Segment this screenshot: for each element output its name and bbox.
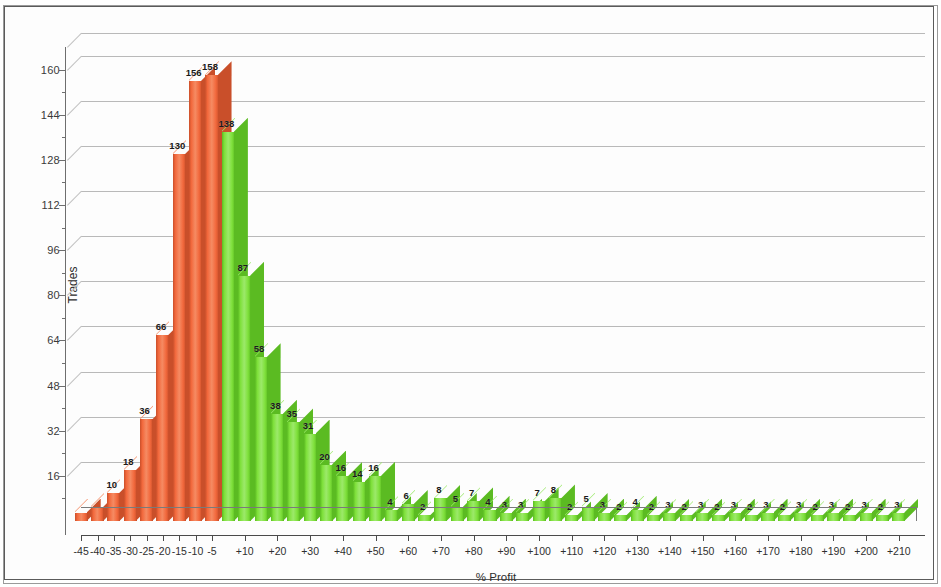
x-tick xyxy=(539,535,540,541)
x-tick xyxy=(866,535,867,541)
bar[interactable] xyxy=(255,357,268,521)
x-tick-label: +160 xyxy=(723,545,747,557)
y-tick xyxy=(59,115,66,116)
y-tick-minor xyxy=(62,228,66,229)
x-tick-label: +170 xyxy=(756,545,780,557)
bar-value-label: 4 xyxy=(485,496,490,507)
x-tick xyxy=(147,535,148,541)
x-tick-label: -45 xyxy=(74,545,89,557)
bar-front-face xyxy=(156,335,169,521)
x-tick xyxy=(130,535,131,541)
axis-depth-connector xyxy=(67,417,82,432)
bar[interactable] xyxy=(238,276,251,521)
grid-line xyxy=(81,56,925,57)
y-tick xyxy=(59,70,66,71)
y-tick xyxy=(59,295,66,296)
bar-value-label: 8 xyxy=(551,484,556,495)
axis-depth-connector xyxy=(67,462,82,477)
bar[interactable] xyxy=(140,419,153,521)
x-tick xyxy=(343,535,344,541)
y-tick-label: 112 xyxy=(42,199,60,211)
x-tick-label: -30 xyxy=(123,545,138,557)
bar-value-label: 7 xyxy=(534,487,539,498)
x-tick xyxy=(506,535,507,541)
bar-front-face xyxy=(271,414,284,521)
x-tick-label: +10 xyxy=(236,545,254,557)
x-axis xyxy=(81,535,925,536)
y-tick-minor xyxy=(62,453,66,454)
bar-value-label: 35 xyxy=(286,408,297,419)
x-tick xyxy=(310,535,311,541)
y-tick-label: 96 xyxy=(47,244,60,256)
x-tick xyxy=(441,535,442,541)
bar-value-label: 36 xyxy=(139,405,150,416)
bar-value-label: 10 xyxy=(107,479,118,490)
bar-value-label: 87 xyxy=(237,262,248,273)
back-wall-top xyxy=(81,33,925,34)
y-tick xyxy=(59,431,66,432)
x-tick xyxy=(572,535,573,541)
x-tick xyxy=(196,535,197,541)
y-tick-minor xyxy=(62,498,66,499)
x-tick xyxy=(245,535,246,541)
bar-front-face xyxy=(173,154,186,521)
bar-value-label: 4 xyxy=(633,496,638,507)
y-tick xyxy=(59,386,66,387)
chart-frame: Trades 163248648096112128144160 10183666… xyxy=(4,6,934,580)
x-tick xyxy=(98,535,99,541)
bar-value-label: 7 xyxy=(469,487,474,498)
bar-front-face xyxy=(255,357,268,521)
x-tick-label: -25 xyxy=(139,545,154,557)
bar[interactable] xyxy=(173,154,186,521)
axis-depth-connector xyxy=(67,146,82,161)
x-tick-label: +150 xyxy=(691,545,715,557)
bar-value-label: 14 xyxy=(352,468,363,479)
x-tick xyxy=(604,535,605,541)
y-tick-minor xyxy=(62,182,66,183)
x-tick-label: -35 xyxy=(106,545,121,557)
x-tick-label: +20 xyxy=(269,545,287,557)
bar-value-label: 66 xyxy=(156,321,167,332)
bar-value-label: 130 xyxy=(169,140,185,151)
bar[interactable] xyxy=(189,81,202,521)
x-tick-label: +70 xyxy=(432,545,450,557)
y-tick xyxy=(59,476,66,477)
x-tick-label: +140 xyxy=(658,545,682,557)
bar[interactable] xyxy=(156,335,169,521)
bar-value-label: 6 xyxy=(404,490,409,501)
y-tick-minor xyxy=(62,408,66,409)
x-tick xyxy=(703,535,704,541)
bar-value-label: 20 xyxy=(319,451,330,462)
x-tick xyxy=(637,535,638,541)
y-tick-minor xyxy=(62,137,66,138)
x-tick-label: -15 xyxy=(172,545,187,557)
plot-area: Trades 163248648096112128144160 10183666… xyxy=(67,35,925,535)
bar-front-face xyxy=(222,132,235,521)
y-tick-minor xyxy=(62,92,66,93)
x-tick xyxy=(212,535,213,541)
bar-value-label: 4 xyxy=(387,496,392,507)
x-tick-label: -5 xyxy=(207,545,216,557)
x-tick xyxy=(899,535,900,541)
bar[interactable] xyxy=(222,132,235,521)
x-tick xyxy=(833,535,834,541)
y-tick-label: 48 xyxy=(47,380,60,392)
axis-depth-connector xyxy=(67,56,82,71)
x-tick-label: +130 xyxy=(625,545,649,557)
axis-depth-connector xyxy=(67,33,82,48)
axis-depth-connector xyxy=(67,236,82,251)
bar[interactable] xyxy=(271,414,284,521)
y-tick-minor xyxy=(62,273,66,274)
x-tick xyxy=(179,535,180,541)
bar-value-label: 138 xyxy=(218,118,234,129)
y-tick xyxy=(59,250,66,251)
x-tick-label: +190 xyxy=(822,545,846,557)
x-tick-label: +50 xyxy=(367,545,385,557)
bar[interactable] xyxy=(205,75,218,521)
y-tick xyxy=(59,340,66,341)
x-tick xyxy=(277,535,278,541)
x-tick xyxy=(163,535,164,541)
x-tick-label: -40 xyxy=(90,545,105,557)
y-axis xyxy=(65,47,68,535)
y-tick-minor xyxy=(62,318,66,319)
